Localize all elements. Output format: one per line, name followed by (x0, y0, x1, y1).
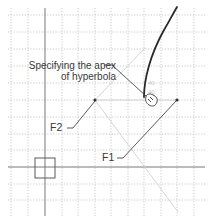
drawing-canvas[interactable]: 40 40 (0, 0, 209, 218)
focus-label-f2: F2 (50, 122, 62, 133)
callout-line-2: of hyperbola (12, 71, 116, 82)
callout-line-1: Specifying the apex (12, 60, 116, 71)
apex-callout-label: Specifying the apex of hyperbola (12, 60, 116, 82)
axes (8, 8, 205, 216)
f2-leader (67, 101, 95, 128)
hand-pointer-icon (146, 94, 158, 106)
svg-text:40: 40 (148, 80, 155, 86)
f1-leader (117, 101, 176, 158)
grid (8, 8, 205, 216)
cursor-tooltip-marks: 40 40 (148, 80, 155, 95)
focus-label-f1: F1 (102, 152, 114, 163)
